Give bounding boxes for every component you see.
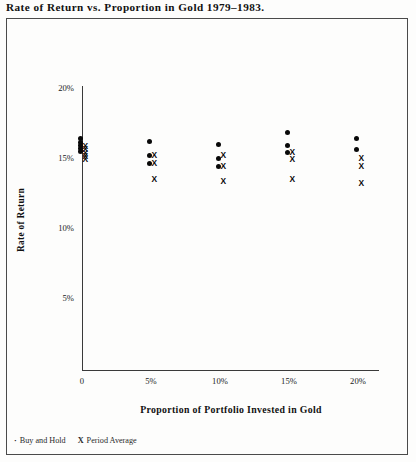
legend-item: XPeriod Average [78, 436, 137, 445]
legend-label: Buy and Hold [20, 436, 66, 445]
chart-page: Rate of Return vs. Proportion in Gold 19… [0, 0, 416, 462]
page-title: Rate of Return vs. Proportion in Gold 19… [6, 1, 410, 13]
legend-label: Period Average [87, 436, 137, 445]
chart-legend: ·Buy and HoldXPeriod Average [14, 436, 149, 445]
plot-frame [6, 18, 408, 455]
legend-item: ·Buy and Hold [14, 436, 66, 445]
legend-x-icon: X [78, 436, 84, 445]
legend-dot-icon: · [14, 436, 17, 445]
